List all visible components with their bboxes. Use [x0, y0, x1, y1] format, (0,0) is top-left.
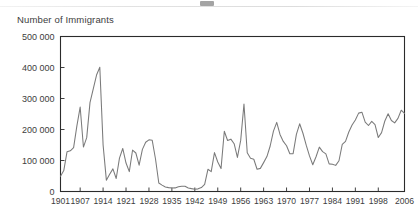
y-axis-tick-label: 100 000 — [22, 156, 55, 166]
x-axis-tick-label: 1942 — [185, 196, 204, 206]
x-axis-tick-label: 1991 — [346, 196, 365, 206]
immigration-line-chart: 0100 000200 000300 000400 000500 000 190… — [0, 0, 418, 211]
y-axis-tick-label: 500 000 — [22, 32, 55, 42]
x-axis-tick-label: 1907 — [71, 196, 90, 206]
x-axis-tick-label: 1977 — [300, 196, 319, 206]
x-axis-tick-label: 1998 — [369, 196, 388, 206]
immigrants-series-line — [61, 67, 405, 189]
x-axis-tick-label: 1963 — [254, 196, 273, 206]
x-axis-tick-label: 1901 — [51, 196, 70, 206]
y-axis-tick-group: 0100 000200 000300 000400 000500 000 — [22, 32, 65, 197]
plot-frame — [61, 37, 405, 192]
x-axis-tick-label: 1970 — [277, 196, 296, 206]
x-axis-tick-label: 1928 — [139, 196, 158, 206]
x-axis-tick-label: 1984 — [323, 196, 342, 206]
x-axis-tick-label: 1949 — [208, 196, 227, 206]
x-axis-tick-label: 1914 — [94, 196, 113, 206]
x-axis-tick-group: 1901190719141921192819351942194919561963… — [51, 188, 414, 206]
x-axis-tick-label: 1935 — [162, 196, 181, 206]
y-axis-tick-label: 300 000 — [22, 94, 55, 104]
x-axis-tick-label: 1956 — [231, 196, 250, 206]
y-axis-tick-label: 400 000 — [22, 63, 55, 73]
x-axis-tick-label: 2006 — [395, 196, 414, 206]
chart-canvas: 0100 000200 000300 000400 000500 000 190… — [0, 0, 418, 211]
y-axis-tick-label: 200 000 — [22, 125, 55, 135]
x-axis-tick-label: 1921 — [116, 196, 135, 206]
